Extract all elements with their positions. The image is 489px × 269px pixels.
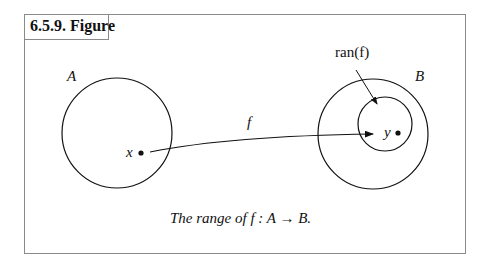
point-y-label: y (384, 124, 391, 141)
point-x-dot (138, 150, 143, 155)
figure-caption: The range of f : A → B. (170, 210, 311, 227)
figure-diagram (0, 0, 489, 269)
range-label: ran(f) (335, 44, 369, 61)
point-y-dot (395, 130, 400, 135)
point-x-label: x (126, 144, 133, 161)
function-arrow (150, 134, 373, 152)
set-b-label: B (415, 68, 424, 85)
function-label: f (247, 114, 251, 131)
range-pointer-arrow (356, 70, 377, 104)
set-a-circle (62, 78, 172, 188)
set-a-label: A (67, 68, 76, 85)
